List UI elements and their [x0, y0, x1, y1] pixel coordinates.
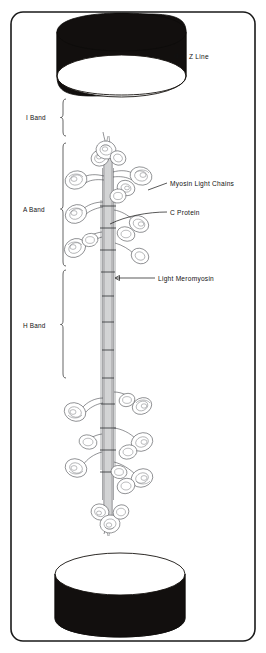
feature-c-protein: C Protein — [110, 209, 200, 224]
myosin-head — [61, 398, 103, 424]
myosin-head-cluster-lower — [61, 391, 155, 534]
feature-label-z-line: Z Line — [189, 53, 209, 60]
z-line-disc-bottom — [55, 553, 185, 637]
feature-myosin-light-chains: Myosin Light Chains — [148, 180, 235, 190]
band-label-h-band: H Band — [23, 322, 46, 329]
feature-label-myosin-light-chains: Myosin Light Chains — [170, 180, 235, 188]
myosin-head — [114, 392, 154, 417]
myosin-head — [63, 452, 102, 480]
sarcomere-diagram: I Band A Band H Band Z Line Myosin Light… — [0, 0, 266, 653]
band-brace-group — [61, 99, 67, 378]
brace-h-band — [61, 270, 67, 378]
myosin-head — [77, 433, 102, 451]
figure-root: I Band A Band H Band Z Line Myosin Light… — [0, 0, 266, 653]
band-label-i-band: I Band — [26, 114, 46, 121]
feature-label-c-protein: C Protein — [170, 209, 200, 216]
feature-light-meromyosin: Light Meromyosin — [115, 275, 214, 283]
figure-border — [11, 12, 255, 641]
myosin-head-cluster-upper — [61, 132, 154, 267]
myosin-head — [115, 243, 151, 267]
brace-i-band — [61, 99, 67, 136]
z-line-disc-top — [57, 13, 186, 97]
feature-label-light-meromyosin: Light Meromyosin — [158, 275, 214, 283]
myosin-head — [63, 168, 104, 191]
band-label-a-band: A Band — [23, 206, 45, 213]
myosin-head — [62, 201, 103, 227]
